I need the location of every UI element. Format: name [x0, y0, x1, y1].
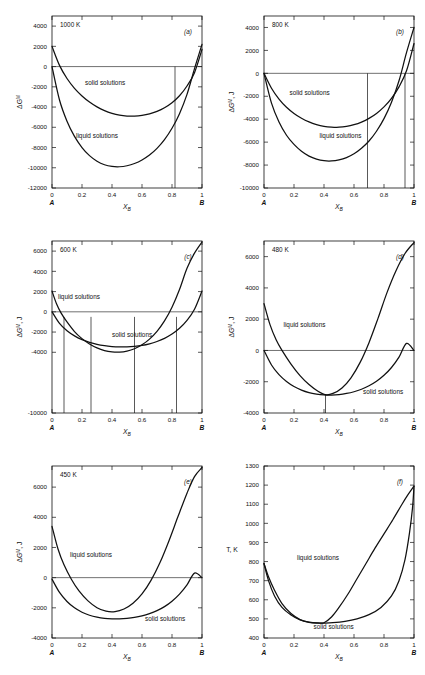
x-tick-label: 0 [262, 641, 266, 648]
curve-solid-solutions [52, 573, 202, 619]
x-tick-label: 1 [200, 641, 204, 648]
x-tick-label: 0.6 [350, 416, 359, 423]
plot-e: 6000400020000-2000-400000.20.40.60.81450… [0, 450, 212, 675]
y-tick-label: -2000 [243, 92, 259, 99]
temperature-label: 600 K [60, 246, 77, 253]
curve-liquid-solutions [264, 243, 414, 395]
x-tick-label: 0.8 [168, 641, 177, 648]
x-tick-label: 0 [50, 416, 54, 423]
panel-e: 6000400020000-2000-400000.20.40.60.81450… [0, 450, 212, 675]
x-tick-label: 0 [262, 191, 266, 198]
y-tick-label: 6000 [33, 247, 47, 254]
y-tick-label: 400 [249, 634, 260, 641]
curve-solid-solutions [52, 46, 202, 116]
y-tick-label: 0 [256, 347, 260, 354]
y-tick-label: -8000 [31, 144, 47, 151]
right-end-label: B [412, 424, 417, 431]
y-tick-label: 0 [44, 63, 48, 70]
temperature-label: 800 K [272, 21, 289, 28]
y-tick-label: 4000 [33, 22, 47, 29]
panel-c: 6000400020000-2000-4000-1000000.20.40.60… [0, 225, 212, 450]
y-tick-label: 2000 [33, 43, 47, 50]
y-tick-label: 2000 [245, 47, 259, 54]
y-tick-label: 1300 [245, 462, 259, 469]
x-tick-label: 0.4 [320, 191, 329, 198]
x-axis-title: XB [122, 203, 132, 212]
x-tick-label: 0.8 [168, 416, 177, 423]
curve-solidus [264, 486, 414, 623]
y-tick-label: 4000 [245, 284, 259, 291]
y-tick-label: 1000 [245, 520, 259, 527]
y-axis-title: T, K [226, 546, 238, 553]
y-tick-label: 2000 [33, 288, 47, 295]
y-axis-title: ΔGM, J [228, 91, 235, 112]
y-tick-label: -2000 [31, 83, 47, 90]
y-tick-label: 6000 [33, 483, 47, 490]
plot-f: 130012001100100090080070060050040000.20.… [212, 450, 424, 675]
y-tick-label: -2000 [31, 328, 47, 335]
x-tick-label: 0.8 [380, 191, 389, 198]
y-tick-label: -2000 [243, 378, 259, 385]
liquid-solutions-label: liquid solutions [284, 321, 326, 329]
y-tick-label: 600 [249, 596, 260, 603]
y-tick-label: -6000 [243, 138, 259, 145]
temperature-label: 1000 K [60, 21, 81, 28]
panel-id-label: (d) [396, 253, 404, 261]
left-end-label: A [261, 424, 267, 431]
liquid-solutions-label: liquid solutions [76, 132, 118, 140]
x-tick-label: 0.2 [290, 641, 299, 648]
y-axis-title: ΔGM, J [16, 316, 23, 337]
y-tick-label: 4000 [33, 268, 47, 275]
y-tick-label: 1100 [246, 500, 260, 507]
panel-id-label: (b) [396, 28, 404, 36]
x-tick-label: 0.4 [320, 416, 329, 423]
y-tick-label: 6000 [245, 253, 259, 260]
y-axis-title: ΔGM [16, 95, 23, 109]
x-axis-title: XB [334, 653, 344, 662]
right-end-label: B [200, 424, 205, 431]
plot-c: 6000400020000-2000-4000-1000000.20.40.60… [0, 225, 212, 450]
panel-f: 130012001100100090080070060050040000.20.… [212, 450, 424, 675]
x-tick-label: 1 [412, 416, 416, 423]
x-tick-label: 0.4 [108, 191, 117, 198]
y-axis-title: ΔGM, J [16, 541, 23, 562]
plot-frame [52, 16, 202, 188]
y-tick-label: -4000 [243, 409, 259, 416]
x-tick-label: 0 [50, 641, 54, 648]
left-end-label: A [261, 649, 267, 656]
x-tick-label: 0.6 [138, 191, 147, 198]
y-tick-label: 700 [249, 577, 260, 584]
x-tick-label: 0 [50, 191, 54, 198]
left-end-label: A [261, 199, 267, 206]
solid-solutions-label: solid solutions [85, 79, 125, 86]
y-tick-label: 800 [249, 558, 260, 565]
left-end-label: A [49, 199, 55, 206]
y-tick-label: 4000 [245, 24, 259, 31]
x-tick-label: 0.4 [108, 416, 117, 423]
y-tick-label: -6000 [31, 123, 47, 130]
x-tick-label: 0.4 [320, 641, 329, 648]
x-tick-label: 1 [200, 416, 204, 423]
y-axis-title: ΔGM, J [228, 316, 235, 337]
x-axis-title: XB [334, 203, 344, 212]
panel-id-label: (c) [184, 253, 191, 261]
x-tick-label: 1 [412, 641, 416, 648]
panel-a: 400020000-2000-4000-6000-8000-10000-1200… [0, 0, 212, 225]
liquid-solutions-label: liquid solutions [297, 554, 339, 562]
y-tick-label: -10000 [28, 164, 48, 171]
solid-solutions-label: solid solutions [314, 623, 354, 630]
left-end-label: A [49, 649, 55, 656]
x-axis-title: XB [122, 653, 132, 662]
x-axis-title: XB [334, 428, 344, 437]
liquid-solutions-label: liquid solutions [58, 293, 100, 301]
curve-liquid-solutions [264, 27, 414, 161]
y-tick-label: 2000 [33, 544, 47, 551]
solid-solutions-label: solid solutions [363, 388, 403, 395]
x-tick-label: 0.4 [108, 641, 117, 648]
y-tick-label: -4000 [243, 115, 259, 122]
panel-id-label: (f) [397, 478, 403, 486]
x-tick-label: 1 [412, 191, 416, 198]
y-tick-label: 0 [44, 308, 48, 315]
y-tick-label: 4000 [33, 513, 47, 520]
x-tick-label: 0.2 [290, 191, 299, 198]
